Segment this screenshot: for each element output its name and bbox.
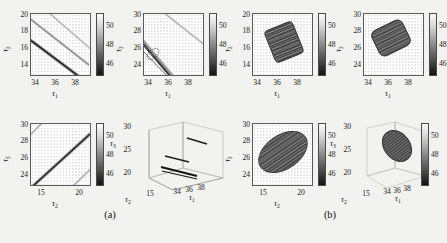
ytick-b-bottom-left-2: 26 (230, 154, 250, 162)
ytick-b-top-left-3: 14 (230, 61, 250, 69)
cbtick-b-bottom-right-2: 46 (431, 170, 439, 178)
subplot-b-bottom-left: 30 28 26 24 15 20 τ3 τ2 50 48 46 (222, 118, 334, 218)
colorbar-b-top-right (429, 13, 437, 76)
tau-subscript: 2 (55, 203, 58, 209)
xtick-b-top-right-1: 36 (381, 79, 395, 87)
subplot-a-bottom-right: 30 25 20 15 34 36 38 τ3 τ2 τ1 (113, 118, 225, 218)
xtick3d-b-bottom-right-2: 38 (401, 185, 413, 193)
tau-symbol: τ (1, 159, 10, 162)
ytick-a-bottom-left-2: 26 (8, 154, 28, 162)
colorbar-a-bottom-left (96, 123, 104, 186)
xtick-a-top-left-0: 34 (28, 79, 42, 87)
ztick-b-bottom-right-0: 30 (335, 123, 351, 131)
ylabel-b-top-right: τ3 (335, 32, 343, 52)
tau-subscript: 3 (337, 46, 343, 49)
xlabel-b-top-right: τ1 (385, 90, 391, 98)
xtick-b-top-left-1: 36 (270, 79, 284, 87)
cbtick-b-bottom-right-1: 48 (431, 151, 439, 159)
contour-canvas-a-top-left (31, 14, 91, 76)
ztick-a-bottom-right-0: 30 (115, 123, 131, 131)
xlabel-b-bottom-right: τ1 (395, 195, 401, 203)
tau-subscript: 2 (277, 203, 280, 209)
colorbar-a-top-right (209, 13, 217, 76)
xtick-a-top-left-1: 36 (48, 79, 62, 87)
xtick-b-bottom-left-0: 15 (256, 189, 270, 197)
xtick-a-top-right-2: 38 (181, 79, 195, 87)
xtick-b-bottom-left-1: 20 (294, 189, 308, 197)
ytick-a-top-right-3: 24 (121, 61, 141, 69)
ytick-a-top-left-3: 14 (8, 61, 28, 69)
xtick-b-top-right-2: 38 (401, 79, 415, 87)
xlabel-a-top-right: τ1 (165, 90, 171, 98)
tau-subscript: 3 (117, 46, 123, 49)
cbtick-b-top-right-0: 50 (439, 22, 447, 30)
xlabel-b-top-left: τ1 (274, 90, 280, 98)
tau-subscript: 3 (4, 156, 10, 159)
zlabel-a-bottom-right: τ3 (110, 140, 116, 148)
tau-symbol: τ (114, 49, 123, 52)
ytick-a-top-left-2: 16 (8, 44, 28, 52)
ytick-b-top-right-2: 26 (341, 44, 361, 52)
ytick3d-b-bottom-right-0: 15 (359, 190, 373, 198)
tau-subscript: 2 (4, 46, 10, 49)
colorbar-b-bottom-left (318, 123, 326, 186)
ytick-a-top-right-2: 26 (121, 44, 141, 52)
subplot-b-top-left: 20 18 16 14 34 36 38 τ2 τ1 50 48 46 (222, 0, 334, 118)
zlabel-b-bottom-right: τ3 (330, 140, 336, 148)
plot-area-b-top-left (252, 13, 313, 76)
subplot-b-bottom-right: 30 25 20 15 34 36 38 τ3 τ2 τ1 50 48 46 (333, 118, 445, 218)
xlabel-a-bottom-left: τ2 (52, 200, 58, 208)
plot-area-a-bottom-left (30, 123, 91, 186)
tau-symbol: τ (223, 159, 232, 162)
xtick-a-top-left-2: 38 (68, 79, 82, 87)
xtick3d-a-bottom-right-2: 38 (195, 184, 207, 192)
ytick-b-top-right-0: 30 (341, 11, 361, 19)
ylabel-b-top-left: τ2 (224, 32, 232, 52)
plot-area-b-top-right (363, 13, 424, 76)
cbtick-b-top-right-1: 48 (439, 41, 447, 49)
ytick3d-a-bottom-right-0: 15 (143, 190, 157, 198)
tau-subscript: 1 (55, 93, 58, 99)
ytick-b-bottom-left-3: 24 (230, 171, 250, 179)
ytick-b-top-left-2: 16 (230, 44, 250, 52)
subplot-a-top-right: 30 28 26 24 34 36 38 τ3 τ1 50 48 46 (113, 0, 225, 118)
subplot-a-bottom-left: 30 28 26 24 15 20 τ3 τ2 50 48 46 (0, 118, 112, 218)
cbtick-b-top-right-2: 46 (439, 60, 447, 68)
tau-symbol: τ (223, 49, 232, 52)
xtick-a-bottom-left-0: 15 (34, 189, 48, 197)
colorbar-b-bottom-right (421, 123, 429, 186)
xlabel-a-bottom-right: τ1 (189, 194, 195, 202)
subplot-b-top-right: 30 28 26 24 34 36 38 τ3 τ1 50 48 46 (333, 0, 445, 118)
ztick-b-bottom-right-1: 25 (335, 146, 351, 154)
xlabel-b-bottom-left: τ2 (274, 200, 280, 208)
ylabel-a-bottom-right: τ2 (125, 196, 131, 204)
colorbar-a-top-left (96, 13, 104, 76)
tau-subscript: 2 (128, 199, 131, 205)
ytick-a-top-left-1: 18 (8, 27, 28, 35)
subplot-a-top-left: 20 18 16 14 34 36 38 τ2 τ1 50 48 46 (0, 0, 112, 118)
ytick-b-top-left-0: 20 (230, 11, 250, 19)
ylabel-a-bottom-left: τ3 (2, 142, 10, 162)
colorbar-b-top-left (318, 13, 326, 76)
xlabel-a-top-left: τ1 (52, 90, 58, 98)
ztick-a-bottom-right-2: 20 (115, 169, 131, 177)
plot-area-a-top-left (30, 13, 91, 76)
ztick-a-bottom-right-1: 25 (115, 146, 131, 154)
tau-subscript: 3 (226, 156, 232, 159)
xtick-b-top-left-0: 34 (250, 79, 264, 87)
ytick-b-bottom-left-1: 28 (230, 137, 250, 145)
tau-subscript: 2 (344, 199, 347, 205)
tau-subscript: 2 (226, 46, 232, 49)
ylabel-b-bottom-left: τ3 (224, 142, 232, 162)
ytick-a-bottom-left-0: 30 (8, 121, 28, 129)
plot-area-a-top-right (143, 13, 204, 76)
cbtick-b-bottom-right-0: 50 (431, 132, 439, 140)
plot-area-b-bottom-left (252, 123, 313, 186)
caption-a: (a) (80, 210, 140, 221)
xtick-a-top-right-0: 34 (141, 79, 155, 87)
ytick-b-top-left-1: 18 (230, 27, 250, 35)
contour-canvas-a-top-right (144, 14, 204, 76)
caption-b: (b) (300, 210, 360, 221)
ytick-a-bottom-left-1: 28 (8, 137, 28, 145)
tau-subscript: 1 (398, 198, 401, 204)
